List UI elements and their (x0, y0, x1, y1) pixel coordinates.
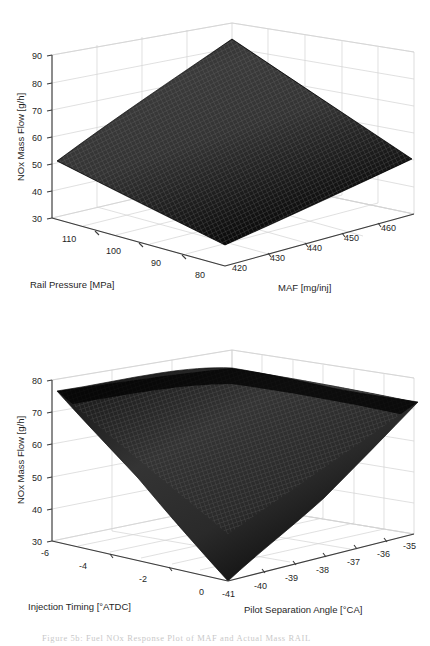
plot-bottom-svg: 30 40 50 60 70 80 -6 -4 -2 0 -41 -40 -39… (0, 338, 430, 628)
ztick2-70: 70 (32, 408, 42, 418)
xtick-80: 80 (195, 270, 205, 280)
ytick2-m35: -35 (403, 541, 416, 551)
figure-container: 30 40 50 60 70 80 90 110 100 90 80 420 4… (0, 0, 430, 646)
ytick-420: 420 (232, 263, 247, 273)
ztick-30: 30 (32, 214, 42, 224)
ztick-90: 90 (32, 51, 42, 61)
plot-top-svg: 30 40 50 60 70 80 90 110 100 90 80 420 4… (0, 0, 430, 310)
ztick-50: 50 (32, 160, 42, 170)
xtick2-m6: -6 (41, 548, 49, 558)
xtick-90: 90 (151, 258, 161, 268)
ztick2-40: 40 (32, 505, 42, 515)
surface-plot-injection-timing-psa: 30 40 50 60 70 80 -6 -4 -2 0 -41 -40 -39… (0, 338, 430, 628)
ztick-40: 40 (32, 187, 42, 197)
ztick2-80: 80 (32, 376, 42, 386)
xtick2-m4: -4 (79, 561, 87, 571)
plot-top-xaxis-title: Rail Pressure [MPa] (30, 279, 114, 290)
ytick2-m36: -36 (377, 549, 390, 559)
ztick-70: 70 (32, 106, 42, 116)
ztick2-30: 30 (32, 537, 42, 547)
xtick2-m2: -2 (139, 574, 147, 584)
ytick-460: 460 (381, 223, 396, 233)
xtick-100: 100 (106, 246, 121, 256)
ytick2-m41: -41 (222, 589, 235, 599)
ytick2-m39: -39 (285, 573, 298, 583)
ytick2-m40: -40 (254, 581, 267, 591)
plot-bottom-zaxis-title: NOx Mass Flow [g/h] (15, 416, 26, 504)
ytick-430: 430 (270, 253, 285, 263)
surface-plot-rail-pressure-maf: 30 40 50 60 70 80 90 110 100 90 80 420 4… (0, 0, 430, 310)
ytick2-m38: -38 (316, 565, 329, 575)
ytick-450: 450 (344, 233, 359, 243)
ytick2-m37: -37 (347, 557, 360, 567)
plot-bottom-yaxis-title: Pilot Separation Angle [°CA] (244, 604, 362, 615)
ztick2-50: 50 (32, 473, 42, 483)
plot-top-surface (40, 25, 430, 265)
xtick-110: 110 (62, 234, 76, 244)
plot-top-yaxis-title: MAF [mg/inj] (278, 282, 331, 293)
plot-bottom-xaxis-title: Injection Timing [°ATDC] (28, 601, 131, 612)
ztick-60: 60 (32, 133, 42, 143)
ytick-440: 440 (307, 243, 322, 253)
figure-caption: Figure 5b: Fuel NOx Response Plot of MAF… (42, 634, 311, 643)
ztick-80: 80 (32, 79, 42, 89)
xtick2-0: 0 (199, 587, 204, 597)
plot-bottom-surface (40, 353, 430, 598)
ztick2-60: 60 (32, 440, 42, 450)
figure-caption-strip: Figure 5b: Fuel NOx Response Plot of MAF… (0, 634, 430, 646)
plot-top-zaxis-title: NOx Mass Flow [g/h] (15, 93, 26, 181)
